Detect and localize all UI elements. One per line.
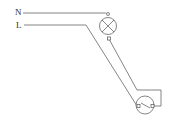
live-wire bbox=[24, 25, 137, 106]
lamp-icon bbox=[100, 13, 117, 41]
switched-wire bbox=[109, 39, 161, 106]
circuit-wiring bbox=[0, 0, 172, 118]
circuit-diagram: N L bbox=[0, 0, 172, 118]
switch-icon bbox=[136, 96, 154, 114]
